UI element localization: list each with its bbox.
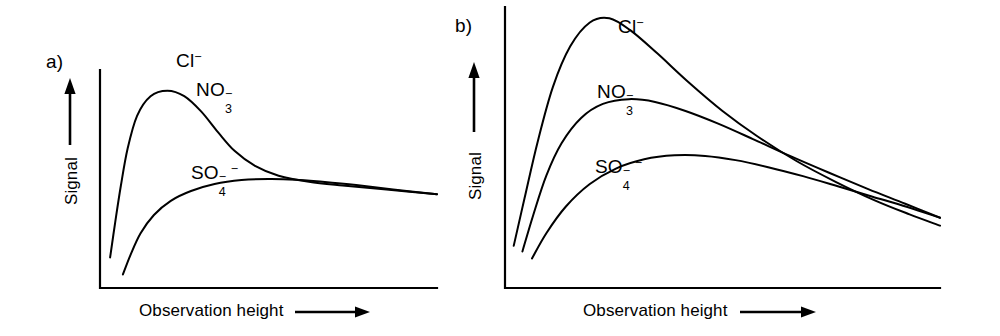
panel-b-letter: b) bbox=[455, 16, 472, 35]
curve-cl- bbox=[514, 18, 940, 246]
panel-b-label-chloride: Cl− bbox=[618, 17, 644, 36]
panel-b-label-nitrate: NO−3 bbox=[597, 82, 638, 101]
x-axis-arrow-head bbox=[355, 306, 370, 317]
curve-so4- bbox=[532, 155, 940, 258]
curve-so4- bbox=[123, 179, 437, 274]
panel-b-x-axis-title: Observation height bbox=[583, 302, 728, 319]
curve-cl-no3-coincident- bbox=[110, 91, 437, 258]
panel-a-letter: a) bbox=[46, 52, 63, 71]
panel-a: a) Signal Observation height Cl− NO−3 SO… bbox=[0, 0, 460, 336]
panel-a-y-axis-title: Signal bbox=[63, 157, 80, 205]
x-axis-arrow-head bbox=[801, 306, 816, 317]
panel-a-x-axis-title: Observation height bbox=[139, 302, 284, 319]
figure-root: a) Signal Observation height Cl− NO−3 SO… bbox=[0, 0, 1000, 336]
y-axis-arrow-head bbox=[64, 78, 75, 94]
panel-a-label-chloride: Cl− bbox=[176, 51, 202, 70]
y-axis-arrow-head bbox=[468, 62, 479, 78]
panel-a-label-sulfate: SO−4− bbox=[191, 163, 238, 182]
curve-no3- bbox=[522, 99, 940, 251]
panel-b-label-sulfate: SO−4− bbox=[595, 157, 642, 176]
panel-a-label-nitrate: NO−3 bbox=[196, 80, 237, 99]
axis-lines bbox=[505, 7, 940, 288]
panel-b-y-axis-title: Signal bbox=[467, 152, 484, 200]
panel-b-plot bbox=[440, 0, 1000, 336]
panel-b: b) Signal Observation height Cl− NO−3 SO… bbox=[440, 0, 1000, 336]
